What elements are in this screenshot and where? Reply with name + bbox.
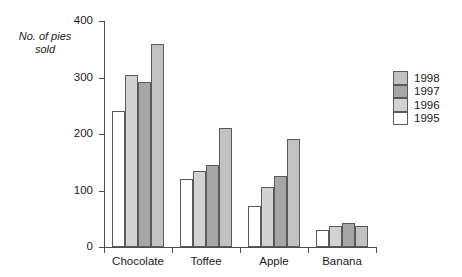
bar-banana-1998 [355,226,368,247]
bar-banana-1996 [329,226,342,247]
legend-swatch-1998 [393,71,408,85]
bar-apple-1997 [274,176,287,247]
legend-label-1998: 1998 [414,72,440,85]
y-axis-tick-label: 0 [25,241,93,253]
x-axis-tick [308,248,309,253]
y-axis-title: No. of pies sold [6,30,84,56]
legend-swatch-1997 [393,85,408,99]
legend-item-1998: 1998 [393,71,455,85]
bar-banana-1997 [342,223,355,247]
bar-chart: No. of pies sold 0100200300400 Chocolate… [0,0,462,277]
x-axis-tick [240,248,241,253]
bar-toffee-1997 [206,165,219,247]
legend-item-1997: 1997 [393,85,455,99]
x-axis-tick [376,248,377,253]
bar-apple-1995 [248,206,261,247]
legend-swatch-1996 [393,98,408,112]
bar-toffee-1995 [180,179,193,247]
legend-label-1997: 1997 [414,85,440,98]
x-axis-label-banana: Banana [292,254,392,268]
bar-toffee-1998 [219,128,232,247]
legend-label-1995: 1995 [414,112,440,125]
x-axis-tick [172,248,173,253]
y-axis-tick-label: 400 [25,15,93,27]
bar-chocolate-1996 [125,75,138,247]
legend-item-1996: 1996 [393,98,455,112]
legend-label-1996: 1996 [414,99,440,112]
bar-chocolate-1995 [112,111,125,247]
y-axis-tick-label: 100 [25,185,93,197]
y-axis-tick-label: 200 [25,128,93,140]
legend: 1998199719961995 [393,71,455,125]
bar-apple-1996 [261,187,274,247]
bar-apple-1998 [287,139,300,247]
plot-area [104,21,376,247]
legend-item-1995: 1995 [393,112,455,126]
bar-toffee-1996 [193,171,206,247]
y-axis-tick-label: 300 [25,72,93,84]
bar-chocolate-1998 [151,44,164,247]
x-axis-tick [104,248,105,253]
legend-swatch-1995 [393,112,408,126]
bar-chocolate-1997 [138,82,151,247]
bar-banana-1995 [316,230,329,247]
